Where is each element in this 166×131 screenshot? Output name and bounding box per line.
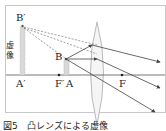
figure-caption: 図5 凸レンズによる虚像: [3, 121, 108, 131]
ray-parallel-out: [97, 59, 160, 88]
label-a: A: [65, 78, 74, 89]
label-f: F: [119, 78, 126, 89]
dashed-ray-1: [24, 27, 97, 45]
ray-center: [66, 59, 155, 112]
focal-point-left: [58, 74, 61, 77]
label-b: B: [55, 51, 62, 62]
object-arrow: [64, 60, 69, 75]
label-virtual-image-char-1: 虚: [6, 40, 14, 50]
label-f-prime: F′: [55, 78, 65, 89]
label-virtual-image-char-2: 像: [6, 50, 14, 60]
convex-lens-virtual-image-diagram: B′ A′ 虚 像 B F′ A F: [0, 0, 166, 131]
label-a-prime: A′: [15, 78, 26, 89]
convex-lens: [91, 22, 104, 125]
focal-point-right: [121, 74, 124, 77]
label-b-prime: B′: [16, 12, 26, 23]
virtual-image-arrow: [20, 27, 25, 75]
ray-focal-in: [66, 45, 92, 59]
virtual-image-tip-point: [21, 25, 23, 27]
